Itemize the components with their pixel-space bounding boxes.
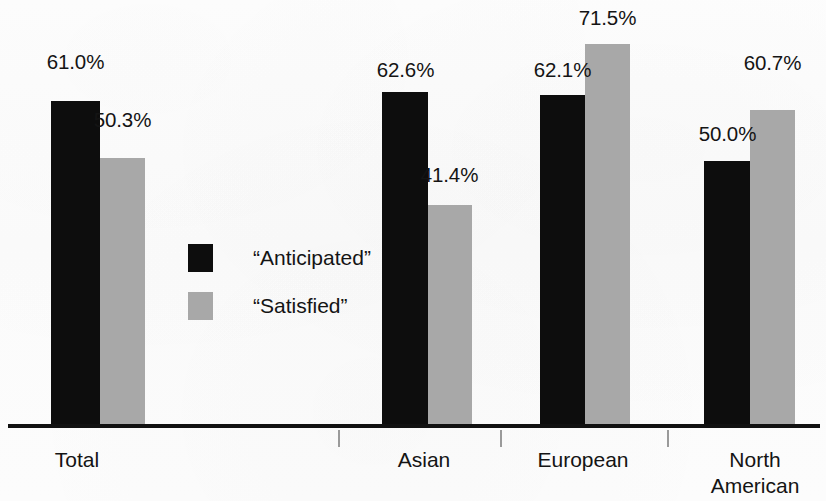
x-axis-label-european-line1: European [537,448,628,471]
legend-item-anticipated: “Anticipated” [188,243,371,273]
x-axis-line [8,424,820,428]
bar-north-american-anticipated [704,161,750,427]
x-axis-tick-1 [338,430,340,447]
bar-european-satisfied [585,44,630,427]
bar-value-label-asian-satisfied: 41.4% [400,163,499,187]
x-axis-label-asian-line1: Asian [398,448,451,471]
legend-label-anticipated: “Anticipated” [253,246,371,270]
legend-label-satisfied: “Satisfied” [253,294,348,318]
bar-chart: 61.0% 50.3% 62.6% 41.4% 62.1% 71.5% 50.0… [0,0,826,501]
bar-value-label-european-anticipated: 62.1% [513,58,612,82]
bar-value-label-total-anticipated: 61.0% [26,50,125,74]
x-axis-label-north-american: North American [690,447,820,499]
chart-legend: “Anticipated” “Satisfied” [188,243,371,339]
legend-swatch-satisfied [188,292,213,320]
bar-value-label-asian-anticipated: 62.6% [356,58,455,82]
bar-north-american-satisfied [750,110,795,427]
x-axis-tick-3 [667,430,669,447]
x-axis-tick-2 [500,430,502,447]
x-axis-label-north-american-line2: American [690,473,820,499]
x-axis-label-total-line1: Total [55,448,99,471]
legend-swatch-anticipated [188,244,213,272]
bar-total-anticipated [51,101,100,427]
x-axis-label-total: Total [17,447,137,473]
bar-asian-satisfied [428,205,472,427]
bar-value-label-north-american-anticipated: 50.0% [678,122,777,146]
bar-value-label-european-satisfied: 71.5% [558,6,657,30]
x-axis-label-european: European [513,447,653,473]
bar-total-satisfied [100,158,145,427]
bar-value-label-total-satisfied: 50.3% [73,108,172,132]
x-axis-label-asian: Asian [364,447,484,473]
bar-european-anticipated [540,95,585,427]
x-axis-label-north-american-line1: North [729,448,780,471]
bar-value-label-north-american-satisfied: 60.7% [723,51,822,75]
plot-area: 61.0% 50.3% 62.6% 41.4% 62.1% 71.5% 50.0… [0,0,826,501]
bar-asian-anticipated [382,92,428,427]
legend-item-satisfied: “Satisfied” [188,291,371,321]
